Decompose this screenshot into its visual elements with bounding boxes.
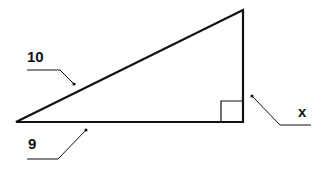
base-label: 9: [28, 136, 36, 151]
base-leader-dot: [84, 128, 87, 131]
height-label: x: [298, 104, 306, 119]
hypotenuse-leader-dot: [72, 82, 75, 85]
triangle-diagram: 10 9 x: [0, 0, 324, 170]
hypotenuse-label: 10: [27, 49, 44, 64]
right-triangle: [16, 10, 243, 122]
triangle-figure: [0, 0, 324, 170]
height-leader-dot: [250, 94, 253, 97]
hypotenuse-leader-line: [27, 70, 74, 84]
right-angle-marker: [221, 101, 243, 122]
